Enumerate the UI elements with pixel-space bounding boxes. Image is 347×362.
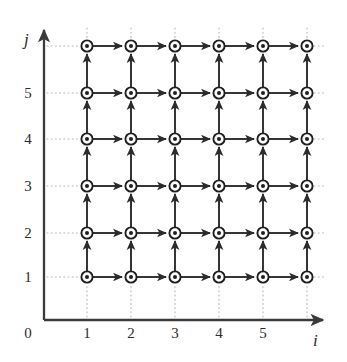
lattice-figure: j i 0 5 4 3 2 1 1 2 3 4 5 [0,0,347,362]
lattice-node [301,180,312,191]
lattice-node [169,40,180,51]
y-tick-5: 5 [21,86,35,101]
y-tick-1: 1 [21,270,35,285]
y-tick-3: 3 [21,179,35,194]
x-axis-label: i [313,332,318,349]
lattice-node [169,133,180,144]
lattice-node [81,271,92,282]
lattice-node [257,180,268,191]
x-tick-2: 2 [124,326,138,341]
x-tick-5: 5 [256,326,270,341]
lattice-node [301,87,312,98]
y-tick-4: 4 [21,132,35,147]
lattice-node [257,227,268,238]
lattice-node [125,271,136,282]
lattice-node [257,271,268,282]
x-tick-3: 3 [168,326,182,341]
lattice-node [257,87,268,98]
lattice-node [125,40,136,51]
x-tick-1: 1 [80,326,94,341]
lattice-node [213,87,224,98]
vertical-edges [87,54,307,271]
lattice-graphic [0,0,347,362]
x-tick-4: 4 [212,326,226,341]
lattice-node [301,40,312,51]
lattice-node [169,227,180,238]
lattice-node [257,133,268,144]
lattice-node [301,133,312,144]
y-tick-2: 2 [21,226,35,241]
horizontal-edges [93,46,298,277]
lattice-node [213,271,224,282]
lattice-node [169,87,180,98]
lattice-node [81,180,92,191]
lattice-node [213,227,224,238]
lattice-node [81,227,92,238]
lattice-node [213,180,224,191]
lattice-node [301,271,312,282]
lattice-node [125,227,136,238]
lattice-node [213,133,224,144]
y-axis-label: j [24,31,29,48]
lattice-node [81,87,92,98]
lattice-node [81,133,92,144]
lattice-node [125,180,136,191]
lattice-nodes [81,40,312,282]
lattice-node [81,40,92,51]
lattice-node [301,227,312,238]
lattice-node [125,133,136,144]
lattice-node [169,180,180,191]
lattice-node [257,40,268,51]
lattice-node [213,40,224,51]
lattice-node [125,87,136,98]
lattice-node [169,271,180,282]
origin-label: 0 [21,326,35,341]
